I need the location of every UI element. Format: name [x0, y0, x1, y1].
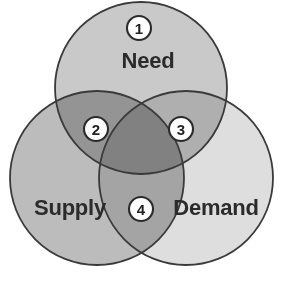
venn-diagram: Need Supply Demand 1 2 3 4: [0, 0, 282, 283]
region-badge-3: 3: [169, 117, 193, 141]
set-label-supply: Supply: [34, 195, 107, 220]
set-label-demand: Demand: [173, 195, 259, 220]
badge-number-1: 1: [135, 20, 143, 37]
venn-circle-fills: [10, 2, 273, 265]
badge-number-4: 4: [137, 201, 146, 218]
region-badge-2: 2: [84, 117, 108, 141]
set-label-need: Need: [122, 48, 175, 73]
venn-canvas: Need Supply Demand 1 2 3 4: [0, 0, 282, 283]
region-badge-4: 4: [129, 197, 153, 221]
badge-number-3: 3: [177, 121, 185, 138]
badge-number-2: 2: [92, 121, 100, 138]
region-badge-1: 1: [127, 16, 151, 40]
